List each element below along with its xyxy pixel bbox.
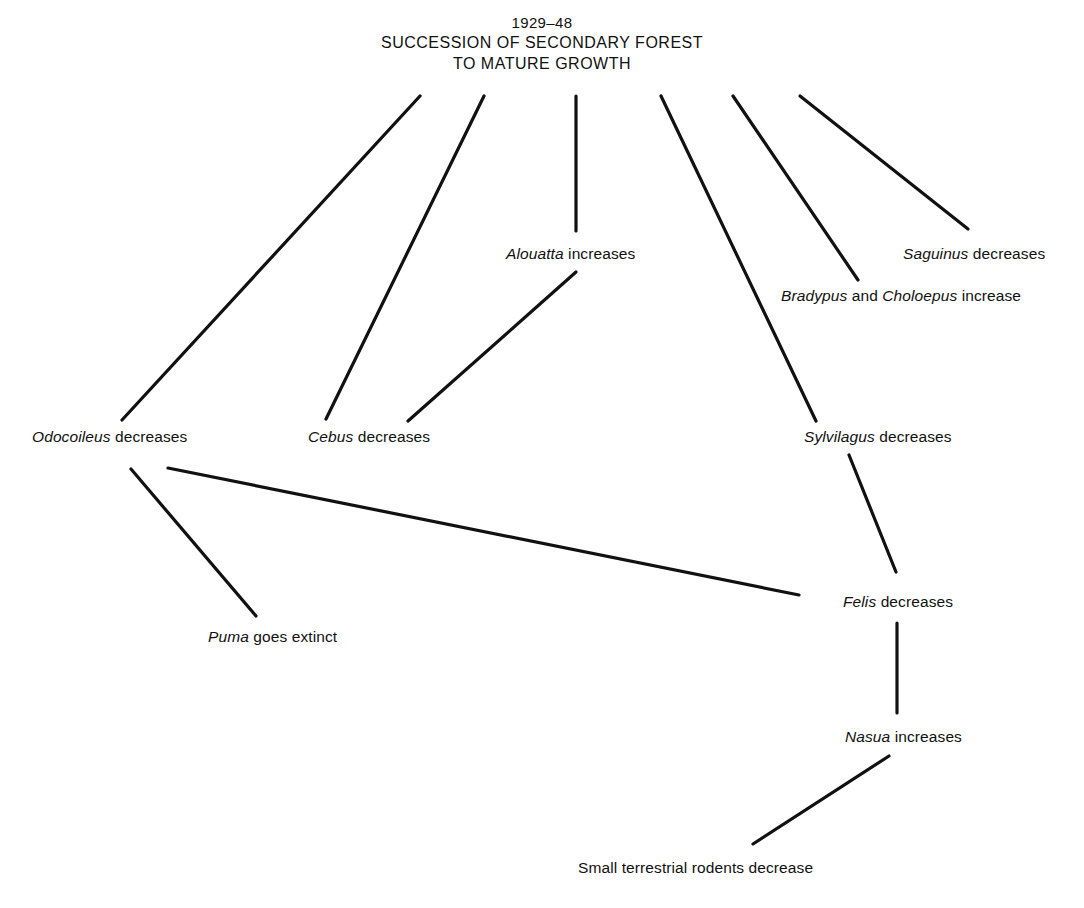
genus-name: Puma [208, 628, 249, 645]
node-label-text-secondary: increase [957, 287, 1021, 304]
node-label-cebus: Cebus decreases [308, 428, 430, 447]
edge-title-to-saguinus [800, 96, 968, 229]
genus-name: Bradypus [781, 287, 847, 304]
edge-title-to-sylvilagus [661, 96, 816, 421]
node-label-text: decreases [968, 245, 1045, 262]
node-label-text: and [847, 287, 882, 304]
edge-title-to-odocoileus [122, 96, 420, 420]
diagram-canvas: 1929–48 SUCCESSION OF SECONDARY FOREST T… [0, 0, 1084, 908]
edge-sylvilagus-to-felis [849, 455, 896, 572]
node-label-nasua: Nasua increases [845, 728, 962, 747]
edge-cebus-to-alouatta [408, 272, 576, 421]
genus-name: Felis [843, 593, 876, 610]
node-label-felis: Felis decreases [843, 593, 953, 612]
node-label-text: Small terrestrial rodents decrease [578, 859, 813, 876]
genus-name: Nasua [845, 728, 890, 745]
node-label-text: increases [890, 728, 962, 745]
edge-odocoileus-to-felis [168, 468, 799, 595]
genus-name: Cebus [308, 428, 353, 445]
node-label-text: increases [564, 245, 636, 262]
genus-name: Odocoileus [32, 428, 111, 445]
edge-layer [0, 0, 1084, 908]
node-label-text: goes extinct [249, 628, 337, 645]
node-label-puma: Puma goes extinct [208, 628, 337, 647]
node-label-bradypus-choloepus: Bradypus and Choloepus increase [781, 287, 1021, 306]
genus-name: Sylvilagus [804, 428, 875, 445]
node-label-text: decreases [875, 428, 952, 445]
node-label-text: decreases [111, 428, 188, 445]
genus-name: Saguinus [903, 245, 968, 262]
node-label-text: decreases [353, 428, 430, 445]
edge-title-to-cebus [326, 96, 484, 419]
edge-title-to-bradypus [733, 96, 858, 280]
node-label-saguinus: Saguinus decreases [903, 245, 1045, 264]
genus-name-secondary: Choloepus [882, 287, 957, 304]
node-label-sylvilagus: Sylvilagus decreases [804, 428, 952, 447]
node-label-alouatta: Alouatta increases [506, 245, 635, 264]
edge-nasua-to-small-rodents [753, 756, 889, 844]
edge-odocoileus-to-puma [131, 469, 256, 616]
genus-name: Alouatta [506, 245, 564, 262]
node-label-odocoileus: Odocoileus decreases [32, 428, 187, 447]
node-label-text: decreases [876, 593, 953, 610]
node-label-small-rodents: Small terrestrial rodents decrease [578, 859, 813, 878]
